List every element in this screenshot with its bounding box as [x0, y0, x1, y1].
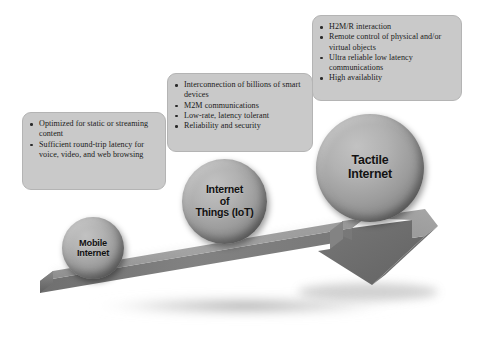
- bullet-item: Remote control of physical and/or virtua…: [319, 32, 454, 53]
- arrowhead-tip-bevel: [372, 226, 438, 285]
- sphere-internet-of-things-label: Internet of Things (IoT): [193, 184, 255, 220]
- bullet-item: Sufficient round-trip latency for voice,…: [29, 140, 158, 161]
- arrow-ground-shadow: [85, 295, 405, 317]
- callout-mobile-internet: Optimized for static or streaming conten…: [22, 112, 166, 190]
- arrowhead-ground-shadow: [298, 283, 438, 301]
- sphere-tactile-internet[interactable]: Tactile Internet: [316, 114, 424, 222]
- bullet-item: H2M/R interaction: [319, 22, 454, 32]
- bullet-item: Interconnection of billions of smart dev…: [174, 80, 305, 101]
- bullet-item: Ultra reliable low latency communication…: [319, 53, 454, 74]
- callout-tactile-internet: H2M/R interaction Remote control of phys…: [312, 15, 462, 101]
- sphere-mobile-internet[interactable]: Mobile Internet: [62, 217, 124, 279]
- bullet-item: M2M communications: [174, 101, 305, 111]
- bullet-item: High availablity: [319, 73, 454, 83]
- callout-mobile-internet-list: Optimized for static or streaming conten…: [29, 119, 158, 160]
- sphere-internet-of-things[interactable]: Internet of Things (IoT): [182, 159, 267, 244]
- callout-internet-of-things-list: Interconnection of billions of smart dev…: [174, 80, 305, 131]
- arrowhead-front-face: [318, 220, 425, 285]
- arrow-left-end-cap: [40, 271, 53, 293]
- callout-internet-of-things: Interconnection of billions of smart dev…: [167, 73, 313, 152]
- bullet-item: Low-rate, latency tolerant: [174, 111, 305, 121]
- arrowhead-upper-barb: [330, 221, 343, 249]
- bullet-item: Reliability and security: [174, 121, 305, 131]
- sphere-tactile-internet-label: Tactile Internet: [346, 154, 394, 182]
- callout-tactile-internet-list: H2M/R interaction Remote control of phys…: [319, 22, 454, 84]
- sphere-mobile-internet-label: Mobile Internet: [75, 238, 111, 259]
- bullet-item: Optimized for static or streaming conten…: [29, 119, 158, 140]
- diagram-canvas: Mobile Internet Internet of Things (IoT)…: [0, 0, 478, 350]
